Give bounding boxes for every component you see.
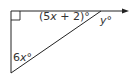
right-angle-marker xyxy=(11,11,20,20)
triangle-diagram: (5x + 2)° y° 6x° xyxy=(0,0,132,78)
exterior-angle-label: y° xyxy=(99,14,112,27)
bottom-angle-label: 6x° xyxy=(13,51,32,64)
top-angle-label: (5x + 2)° xyxy=(39,10,90,23)
arrow-head-icon xyxy=(122,9,129,14)
